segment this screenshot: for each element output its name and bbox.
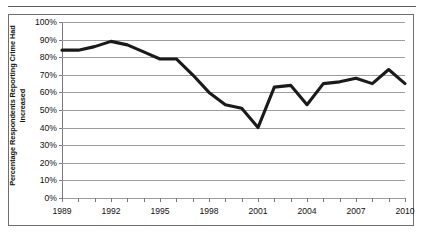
chart-figure: Percentage Respondents Reporting Crime H… <box>0 0 424 233</box>
x-axis-tick-mark <box>323 198 324 202</box>
x-axis-tick-mark <box>405 198 406 202</box>
y-axis-tick-label: 30% <box>40 140 57 150</box>
y-axis-tick-label: 50% <box>40 105 57 115</box>
x-axis-tick-mark <box>242 198 243 202</box>
x-axis-tick-mark <box>62 198 63 202</box>
line-series-path <box>62 41 405 127</box>
top-divider <box>8 6 416 7</box>
x-axis-tick-mark <box>144 198 145 202</box>
y-axis-tick-label: 60% <box>40 87 57 97</box>
x-axis-tick-label: 2001 <box>248 206 267 216</box>
x-axis-tick-label: 2004 <box>297 206 316 216</box>
x-axis-tick-mark <box>127 198 128 202</box>
x-axis-tick-mark <box>78 198 79 202</box>
y-axis-tick-label: 70% <box>40 70 57 80</box>
x-axis-tick-mark <box>258 198 259 202</box>
x-axis-tick-mark <box>225 198 226 202</box>
gridline <box>62 198 405 199</box>
x-axis-tick-mark <box>372 198 373 202</box>
y-axis-tick-label: 100% <box>35 17 57 27</box>
y-axis-title-line-1: Percentage Respondents Reporting Crime H… <box>8 25 17 185</box>
y-axis-tick-label: 10% <box>40 175 57 185</box>
x-axis-tick-mark <box>176 198 177 202</box>
x-axis-tick-mark <box>209 198 210 202</box>
y-axis-title-line-2: Increased <box>18 6 28 206</box>
x-axis-tick-mark <box>111 198 112 202</box>
x-axis-tick-label: 2007 <box>346 206 365 216</box>
x-axis-tick-mark <box>340 198 341 202</box>
x-axis-tick-label: 2010 <box>395 206 414 216</box>
y-axis-tick-label: 20% <box>40 158 57 168</box>
x-axis-tick-mark <box>291 198 292 202</box>
x-axis-tick-mark <box>160 198 161 202</box>
x-axis-tick-label: 1989 <box>52 206 71 216</box>
y-axis-tick-label: 40% <box>40 123 57 133</box>
x-axis-tick-mark <box>356 198 357 202</box>
x-axis-tick-mark <box>193 198 194 202</box>
x-axis-tick-mark <box>389 198 390 202</box>
x-axis-tick-label: 1995 <box>150 206 169 216</box>
y-axis-tick-label: 0% <box>45 193 57 203</box>
x-axis-tick-mark <box>274 198 275 202</box>
x-axis-tick-mark <box>95 198 96 202</box>
plot-area: 100%90%80%70%60%50%40%30%20%10%0% 198919… <box>62 22 405 198</box>
x-axis-tick-label: 1992 <box>101 206 120 216</box>
y-axis-tick-label: 90% <box>40 35 57 45</box>
y-axis-title: Percentage Respondents Reporting Crime H… <box>8 6 27 206</box>
y-axis-tick-label: 80% <box>40 52 57 62</box>
x-axis-tick-label: 1998 <box>199 206 218 216</box>
x-axis-tick-mark <box>307 198 308 202</box>
line-series <box>62 22 405 198</box>
